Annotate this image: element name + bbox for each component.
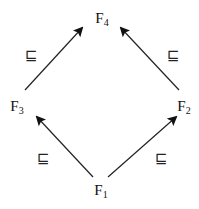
edge-label-f3-f4: ⊑ [25, 46, 38, 64]
edge-label-f1-f3: ⊑ [37, 149, 50, 167]
edge-label-f2-f4: ⊑ [167, 46, 180, 64]
node-f3-sub: 3 [19, 105, 24, 116]
node-f4: F4 [95, 11, 108, 28]
node-f2-sub: 2 [186, 105, 191, 116]
diagram-canvas [0, 0, 199, 209]
node-f4-sub: 4 [104, 17, 109, 28]
edge-f1-f2 [108, 117, 176, 177]
node-f2: F2 [177, 99, 190, 116]
node-f1-sub: 1 [103, 189, 108, 200]
node-f3: F3 [10, 99, 23, 116]
edge-label-f1-f2: ⊑ [155, 149, 168, 167]
edge-f1-f3 [37, 117, 93, 177]
node-f1: F1 [94, 183, 107, 200]
